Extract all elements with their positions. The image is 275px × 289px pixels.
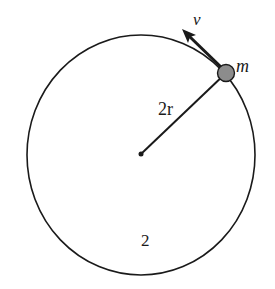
region-label: 2 (141, 231, 150, 250)
velocity-arrow (189, 36, 222, 68)
radius-label: 2r (158, 99, 173, 119)
radius-line (141, 73, 226, 154)
mass-label: m (236, 56, 249, 76)
mass-ball (218, 65, 235, 82)
circular-motion-diagram: v m 2r 2 (0, 0, 275, 289)
velocity-label: v (193, 10, 201, 29)
center-point (139, 152, 144, 157)
